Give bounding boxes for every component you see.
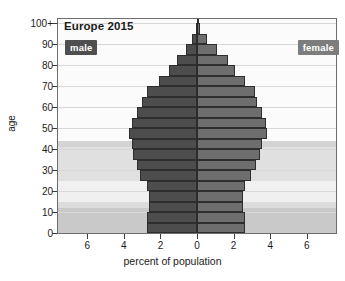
y-tick-label: 10: [13, 207, 53, 218]
bar-male: [147, 212, 197, 222]
bar-female: [197, 149, 260, 159]
x-tick-mark: [160, 234, 161, 239]
bar-female: [197, 191, 243, 201]
bar-female: [197, 97, 257, 107]
y-tick-label: 60: [13, 102, 53, 113]
bar-female: [197, 86, 255, 96]
y-tick-mark: [52, 170, 57, 171]
x-axis-label: percent of population: [0, 255, 345, 267]
bar-male: [129, 128, 197, 138]
bar-female: [197, 212, 245, 222]
bar-female: [197, 181, 245, 191]
x-tick-mark: [307, 234, 308, 239]
x-tick-mark: [270, 234, 271, 239]
y-tick-mark: [52, 128, 57, 129]
y-tick-label: 40: [13, 144, 53, 155]
bar-male: [137, 160, 197, 170]
bar-male: [147, 223, 197, 233]
bar-male: [142, 97, 197, 107]
bar-female: [197, 118, 266, 128]
x-tick-label: 6: [77, 240, 97, 251]
y-tick-mark: [52, 233, 57, 234]
y-tick-label: 0: [13, 228, 53, 239]
bar-female: [197, 65, 235, 75]
x-tick-mark: [197, 234, 198, 239]
y-tick-mark: [52, 149, 57, 150]
x-tick-label: 2: [150, 240, 170, 251]
y-tick-mark: [52, 107, 57, 108]
bar-male: [133, 149, 197, 159]
bar-male: [159, 76, 197, 86]
bar-male: [132, 118, 197, 128]
population-pyramid-figure: Europe 2015 male female 0102030405060708…: [0, 0, 345, 281]
y-axis-label: age: [6, 104, 17, 144]
x-tick-mark: [124, 234, 125, 239]
bar-female: [197, 34, 207, 44]
bar-male: [186, 44, 197, 54]
bar-female: [197, 55, 228, 65]
bar-male: [169, 65, 197, 75]
bar-female: [197, 223, 245, 233]
chart-title: Europe 2015: [64, 20, 134, 32]
x-tick-mark: [234, 234, 235, 239]
bar-male: [147, 86, 197, 96]
y-tick-label: 20: [13, 186, 53, 197]
plot-area: [57, 18, 337, 234]
y-tick-mark: [52, 191, 57, 192]
y-tick-label: 50: [13, 123, 53, 134]
bar-male: [177, 55, 197, 65]
bar-female: [197, 128, 267, 138]
bar-male: [132, 139, 197, 149]
bar-female: [197, 202, 243, 212]
bar-female: [197, 160, 256, 170]
y-tick-mark: [52, 65, 57, 66]
bar-male: [147, 181, 197, 191]
x-tick-label: 6: [297, 240, 317, 251]
x-tick-label: 4: [260, 240, 280, 251]
x-tick-label: 0: [187, 240, 207, 251]
y-tick-label: 100+: [13, 18, 53, 29]
y-tick-label: 80: [13, 60, 53, 71]
legend-badge-female: female: [298, 40, 339, 55]
bar-female: [197, 139, 262, 149]
x-tick-label: 4: [114, 240, 134, 251]
bar-male: [149, 191, 197, 201]
x-tick-label: 2: [224, 240, 244, 251]
y-tick-label: 70: [13, 81, 53, 92]
y-tick-mark: [52, 44, 57, 45]
bar-male: [149, 202, 197, 212]
bar-female: [197, 107, 262, 117]
bar-male: [140, 170, 197, 180]
x-tick-mark: [87, 234, 88, 239]
center-axis-line: [197, 19, 198, 233]
bar-male: [137, 107, 197, 117]
y-tick-mark: [52, 23, 57, 24]
bar-female: [197, 170, 251, 180]
legend-badge-male: male: [65, 40, 97, 55]
y-tick-label: 30: [13, 165, 53, 176]
bar-female: [197, 76, 245, 86]
y-tick-mark: [52, 86, 57, 87]
y-tick-mark: [52, 212, 57, 213]
bar-female: [197, 44, 217, 54]
y-tick-label: 90: [13, 39, 53, 50]
